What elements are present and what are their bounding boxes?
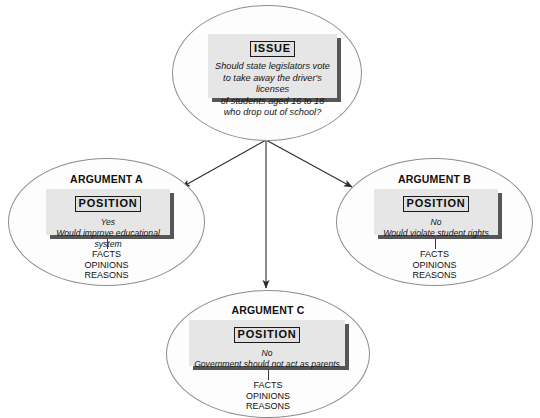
argument-a-heading-row: POSITION bbox=[46, 189, 170, 212]
argument-b-heading-label: POSITION bbox=[403, 196, 470, 212]
argument-b-support-list: FACTS OPINIONS REASONS bbox=[337, 249, 532, 281]
issue-ellipse-content: ISSUE Should state legislators vote to t… bbox=[173, 6, 361, 140]
diagram-canvas: ISSUE Should state legislators vote to t… bbox=[0, 0, 540, 418]
argument-a-position-line: Yes bbox=[46, 217, 170, 228]
argument-a-tick bbox=[107, 239, 108, 249]
argument-a-support-item: FACTS bbox=[9, 249, 204, 260]
argument-c-support-item: OPINIONS bbox=[167, 391, 369, 402]
argument-c-position-panel: POSITION No Government should not act as… bbox=[189, 320, 345, 366]
argument-c-panel-body: No Government should not act as parents bbox=[189, 343, 345, 370]
argument-b-tick bbox=[435, 239, 436, 249]
argument-a-support-item: REASONS bbox=[9, 270, 204, 281]
argument-a-position-line: Would improve educational system bbox=[46, 228, 170, 250]
issue-line: who drop out of school? bbox=[208, 107, 337, 119]
argument-b-ellipse-content: ARGUMENT B POSITION No Would violate stu… bbox=[337, 159, 532, 285]
issue-heading-label: ISSUE bbox=[250, 41, 295, 57]
argument-a-heading-label: POSITION bbox=[75, 196, 142, 212]
argument-b-heading-row: POSITION bbox=[374, 189, 498, 212]
argument-a-support-list: FACTS OPINIONS REASONS bbox=[9, 249, 204, 281]
issue-panel: ISSUE Should state legislators vote to t… bbox=[208, 34, 337, 98]
argument-c-title: ARGUMENT C bbox=[167, 304, 369, 316]
argument-c-ellipse-content: ARGUMENT C POSITION No Government should… bbox=[167, 291, 369, 417]
argument-a-ellipse: ARGUMENT A POSITION Yes Would improve ed… bbox=[8, 158, 205, 286]
argument-c-heading-label: POSITION bbox=[234, 327, 301, 343]
argument-b-panel-body: No Would violate student rights bbox=[374, 212, 498, 239]
issue-line: Should state legislators vote bbox=[208, 61, 337, 73]
argument-b-position-panel: POSITION No Would violate student rights bbox=[374, 189, 498, 235]
argument-c-position-line: No bbox=[189, 348, 345, 359]
issue-line: to take away the driver's licenses bbox=[208, 73, 337, 96]
argument-b-position-line: No bbox=[374, 217, 498, 228]
issue-line: of students aged 16 to 18 bbox=[208, 96, 337, 108]
argument-c-heading-row: POSITION bbox=[189, 320, 345, 343]
argument-c-position-line: Government should not act as parents bbox=[189, 359, 345, 370]
issue-ellipse: ISSUE Should state legislators vote to t… bbox=[172, 5, 362, 141]
issue-panel-heading-row: ISSUE bbox=[208, 34, 337, 57]
argument-c-support-item: FACTS bbox=[167, 380, 369, 391]
argument-b-position-line: Would violate student rights bbox=[374, 228, 498, 239]
argument-b-title: ARGUMENT B bbox=[337, 173, 532, 185]
issue-panel-body: Should state legislators vote to take aw… bbox=[208, 57, 337, 119]
argument-b-support-item: FACTS bbox=[337, 249, 532, 260]
argument-a-support-item: OPINIONS bbox=[9, 260, 204, 271]
argument-c-ellipse: ARGUMENT C POSITION No Government should… bbox=[166, 290, 370, 418]
argument-b-ellipse: ARGUMENT B POSITION No Would violate stu… bbox=[336, 158, 533, 286]
argument-c-support-list: FACTS OPINIONS REASONS bbox=[167, 380, 369, 412]
argument-a-title: ARGUMENT A bbox=[9, 173, 204, 185]
argument-a-ellipse-content: ARGUMENT A POSITION Yes Would improve ed… bbox=[9, 159, 204, 285]
argument-c-tick bbox=[268, 370, 269, 380]
argument-c-support-item: REASONS bbox=[167, 401, 369, 412]
argument-a-panel-body: Yes Would improve educational system bbox=[46, 212, 170, 250]
argument-b-support-item: REASONS bbox=[337, 270, 532, 281]
argument-b-support-item: OPINIONS bbox=[337, 260, 532, 271]
argument-a-position-panel: POSITION Yes Would improve educational s… bbox=[46, 189, 170, 235]
